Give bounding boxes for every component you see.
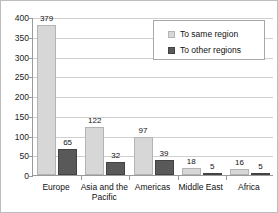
y-axis-tick-label: 100 [3, 133, 29, 141]
bar-value-label: 5 [198, 163, 227, 171]
bar-value-label: 379 [32, 15, 61, 23]
y-axis-labels: 050100150200250300350400 [1, 18, 29, 176]
bar [155, 160, 174, 175]
legend-label-other-regions: To other regions [180, 46, 241, 55]
chart-legend: To same region To other regions [153, 20, 265, 60]
bar-value-label: 97 [129, 127, 158, 135]
legend-item-to-same-region: To same region [168, 29, 238, 39]
legend-swatch-icon-same-region [168, 31, 175, 38]
chart-figure: 050100150200250300350400 379651223297391… [0, 0, 278, 213]
bar-value-label: 5 [246, 163, 275, 171]
bar-value-label: 32 [101, 152, 130, 160]
legend-swatch-icon-other-regions [168, 47, 175, 54]
legend-item-to-other-regions: To other regions [168, 45, 241, 55]
bar-value-label: 65 [53, 139, 82, 147]
y-axis-tick-label: 0 [3, 172, 29, 180]
x-axis-category-label: Europe [32, 182, 80, 192]
y-axis-tick-label: 150 [3, 113, 29, 121]
x-axis-category-labels: EuropeAsia and the PacificAmericasMiddle… [32, 180, 273, 212]
x-axis-category-label: Asia and the Pacific [80, 182, 128, 202]
bar [37, 25, 56, 175]
bar [251, 173, 270, 175]
x-axis-category-label: Americas [128, 182, 176, 192]
bar [203, 173, 222, 175]
legend-label-same-region: To same region [180, 30, 238, 39]
bar-group: 37965 [37, 18, 77, 175]
y-axis-tick-label: 350 [3, 34, 29, 42]
bar-value-label: 39 [150, 150, 179, 158]
bar [85, 127, 104, 175]
bar [106, 162, 125, 175]
x-axis-category-label: Middle East [177, 182, 225, 192]
y-axis-tick-label: 300 [3, 54, 29, 62]
y-axis-tick-label: 50 [3, 152, 29, 160]
bar [58, 149, 77, 175]
bar-value-label: 122 [80, 117, 109, 125]
y-axis-tick-label: 250 [3, 73, 29, 81]
bar-group: 12232 [85, 18, 125, 175]
y-axis-tick-label: 400 [3, 14, 29, 22]
y-axis-tick-label: 200 [3, 93, 29, 101]
x-axis-category-label: Africa [225, 182, 273, 192]
y-axis-tick [29, 176, 33, 177]
